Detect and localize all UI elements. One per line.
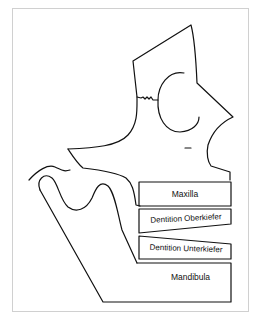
suture-line [137, 97, 158, 100]
mandible-outline [39, 176, 137, 263]
skull-outline [68, 25, 233, 180]
orbit-curve [158, 73, 199, 132]
ear-curve [29, 166, 70, 180]
label-mandibula: Mandibula [150, 272, 231, 282]
upper-jaw-line [68, 149, 140, 206]
label-maxilla: Maxilla [139, 189, 231, 199]
